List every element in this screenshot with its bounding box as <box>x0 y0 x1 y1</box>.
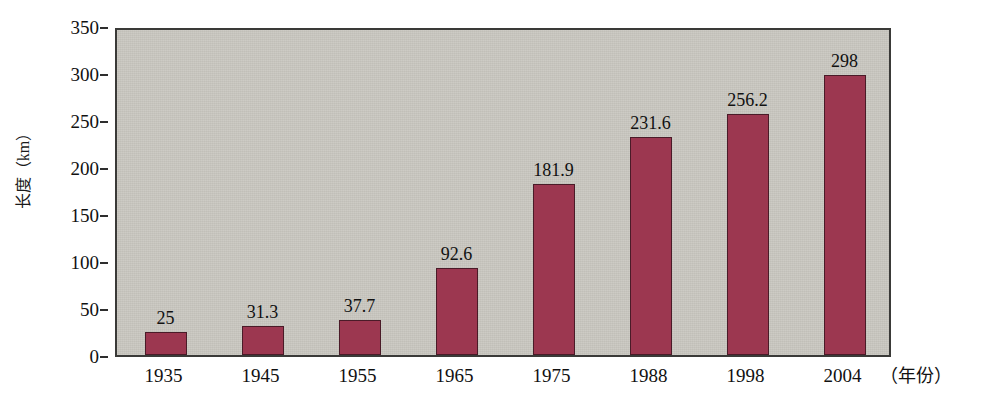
bar <box>145 332 187 356</box>
x-axis-unit-label: （年份） <box>880 364 952 388</box>
x-axis-tick-label: 1988 <box>600 364 697 388</box>
bar-value-label: 298 <box>831 51 858 71</box>
bar-value-label: 181.9 <box>533 160 574 180</box>
bar-group: 298 <box>796 30 893 355</box>
bar-value-label: 37.7 <box>344 296 376 316</box>
x-axis-tick-label: 2004 <box>794 364 891 388</box>
x-axis-tick-label: 1965 <box>406 364 503 388</box>
y-axis-title: 长度（km） <box>10 107 34 227</box>
bar-value-label: 92.6 <box>441 244 473 264</box>
bar-value-label: 25 <box>157 308 175 328</box>
bars-layer: 2531.337.792.6181.9231.6256.2298 <box>117 30 889 355</box>
bar <box>824 75 866 355</box>
x-axis-tick-label: 1998 <box>697 364 794 388</box>
bar-chart-figure: 长度（km） 050100150200250300350 2531.337.79… <box>0 0 985 409</box>
x-axis-tick-label: 1945 <box>212 364 309 388</box>
x-axis-tick-labels: 19351945195519651975198819982004 <box>115 364 891 394</box>
y-axis-tick-label: 350 <box>71 17 100 38</box>
bar <box>436 268 478 355</box>
bar-value-label: 231.6 <box>630 113 671 133</box>
bar-value-label: 31.3 <box>247 302 279 322</box>
bar-group: 231.6 <box>602 30 699 355</box>
x-axis-tick-label: 1935 <box>115 364 212 388</box>
x-axis-tick-label: 1955 <box>309 364 406 388</box>
bar <box>533 184 575 355</box>
y-axis-tick-mark <box>100 309 108 311</box>
bar-group: 181.9 <box>505 30 602 355</box>
bar <box>727 114 769 355</box>
bar-group: 256.2 <box>699 30 796 355</box>
y-axis-tick-label: 0 <box>90 346 100 367</box>
x-axis-tick-label: 1975 <box>503 364 600 388</box>
y-axis-tick-label: 150 <box>71 205 100 226</box>
plot-area: 2531.337.792.6181.9231.6256.2298 <box>115 28 891 357</box>
bar <box>339 320 381 355</box>
y-axis-tick-label: 250 <box>71 111 100 132</box>
bar-group: 37.7 <box>311 30 408 355</box>
y-axis-tick-mark <box>100 215 108 217</box>
y-axis-tick-label: 300 <box>71 64 100 85</box>
y-axis-tick-mark <box>100 121 108 123</box>
bar <box>630 137 672 355</box>
bar-group: 25 <box>117 30 214 355</box>
y-axis-tick-mark <box>100 262 108 264</box>
bar-group: 92.6 <box>408 30 505 355</box>
y-axis-tick-mark <box>100 356 108 358</box>
bar <box>242 326 284 355</box>
bar-group: 31.3 <box>214 30 311 355</box>
bar-value-label: 256.2 <box>727 90 768 110</box>
y-axis-tick-mark <box>100 74 108 76</box>
y-axis-tick-label: 100 <box>71 252 100 273</box>
y-axis-tick-labels: 050100150200250300350 <box>52 28 108 357</box>
y-axis-tick-mark <box>100 168 108 170</box>
y-axis-tick-mark <box>100 27 108 29</box>
y-axis-tick-label: 50 <box>80 299 99 320</box>
y-axis-tick-label: 200 <box>71 158 100 179</box>
